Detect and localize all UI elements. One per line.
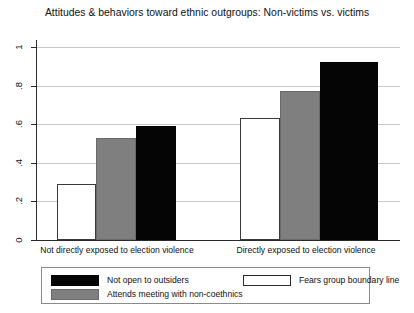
legend-entry-fears-group-boundary-line: Fears group boundary line: [243, 275, 363, 288]
y-tick-mark-06: [31, 124, 36, 125]
y-tick-label-06-text: .6: [14, 120, 24, 128]
y-tick-label-0: 0: [12, 233, 26, 247]
x-axis-line: [36, 240, 400, 241]
y-tick-mark-1: [31, 47, 36, 48]
chart-legend: Not open to outsiders Fears group bounda…: [41, 267, 370, 304]
x-axis-group-label-not-directly-exposed: Not directly exposed to election violenc…: [32, 245, 202, 256]
y-tick-mark-04: [31, 163, 36, 164]
y-axis-line: [36, 40, 37, 241]
legend-entry-attends-meeting-with-non-coethnics: Attends meeting with non-coethnics: [51, 289, 311, 302]
legend-entry-not-open-to-outsiders: Not open to outsiders: [51, 275, 221, 288]
y-tick-label-08: .8: [12, 79, 26, 93]
legend-swatch-white-icon: [243, 275, 291, 286]
chart-figure: Attitudes & behaviors toward ethnic outg…: [0, 0, 414, 313]
bar-group2-fears-group-boundary-line: [240, 118, 280, 240]
y-tick-label-02-text: .2: [14, 197, 24, 205]
legend-label-not-open-to-outsiders: Not open to outsiders: [107, 274, 189, 287]
y-tick-mark-0: [31, 240, 36, 241]
y-tick-mark-02: [31, 201, 36, 202]
plot-area: [36, 47, 400, 240]
y-tick-label-04-text: .4: [14, 159, 24, 167]
bar-group1-not-open-to-outsiders: [136, 126, 176, 240]
legend-label-attends-meeting-with-non-coethnics: Attends meeting with non-coethnics: [107, 288, 243, 301]
y-tick-label-02: .2: [12, 194, 26, 208]
bar-group2-attends-meeting-with-non-coethnics: [280, 91, 320, 240]
x-axis-group-label-directly-exposed: Directly exposed to election violence: [228, 245, 384, 256]
y-tick-label-08-text: .8: [14, 82, 24, 90]
y-tick-label-1: 1: [12, 40, 26, 54]
gridline-1: [36, 47, 400, 48]
legend-swatch-gray-icon: [51, 289, 99, 300]
bar-group1-attends-meeting-with-non-coethnics: [96, 138, 136, 240]
y-tick-label-04: .4: [12, 156, 26, 170]
legend-swatch-black-icon: [51, 275, 99, 286]
y-tick-mark-08: [31, 86, 36, 87]
y-tick-label-0-text: 0: [14, 237, 24, 242]
y-tick-label-1-text: 1: [14, 44, 24, 49]
y-tick-label-06: .6: [12, 117, 26, 131]
bar-group1-fears-group-boundary-line: [57, 184, 96, 240]
bar-group2-not-open-to-outsiders: [320, 62, 378, 240]
legend-label-fears-group-boundary-line: Fears group boundary line: [299, 274, 399, 287]
chart-title: Attitudes & behaviors toward ethnic outg…: [0, 6, 414, 19]
